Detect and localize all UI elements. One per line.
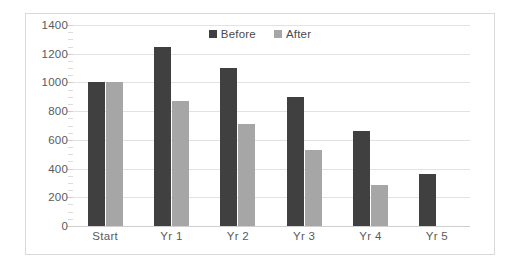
bar-after[interactable] [172, 101, 189, 226]
chart-container: 0200400600800100012001400 StartYr 1Yr 2Y… [25, 13, 495, 255]
legend-swatch-icon [274, 30, 282, 38]
x-axis-tick-label: Yr 5 [426, 230, 448, 242]
bar-after[interactable] [371, 185, 388, 226]
legend-label: After [286, 28, 311, 40]
y-axis-tick-label: 0 [61, 220, 68, 232]
bar-before[interactable] [220, 68, 237, 226]
legend-swatch-icon [209, 30, 217, 38]
bar-before[interactable] [287, 97, 304, 226]
bar-before[interactable] [419, 174, 436, 226]
y-axis-tick-label: 1200 [42, 48, 68, 60]
x-axis: StartYr 1Yr 2Yr 3Yr 4Yr 5 [72, 230, 470, 252]
legend-item-before[interactable]: Before [209, 28, 256, 40]
bar-group [138, 25, 204, 226]
x-axis-tick-label: Yr 4 [359, 230, 381, 242]
bar-group [404, 25, 470, 226]
legend-label: Before [221, 28, 256, 40]
x-axis-tick-label: Yr 3 [293, 230, 315, 242]
y-axis-tick-label: 400 [48, 163, 68, 175]
bar-after[interactable] [305, 150, 322, 226]
bar-group [72, 25, 138, 226]
y-axis-tick-label: 600 [48, 134, 68, 146]
bar-group [205, 25, 271, 226]
chart-legend: BeforeAfter [26, 28, 494, 40]
x-axis-tick-label: Start [92, 230, 118, 242]
bar-group [337, 25, 403, 226]
legend-item-after[interactable]: After [274, 28, 311, 40]
bars-layer [72, 25, 470, 226]
x-axis-tick-label: Yr 1 [160, 230, 182, 242]
x-axis-tick-label: Yr 2 [227, 230, 249, 242]
y-axis: 0200400600800100012001400 [26, 25, 68, 226]
y-axis-tick-label: 200 [48, 191, 68, 203]
y-axis-tick-label: 1000 [42, 76, 68, 88]
bar-before[interactable] [353, 131, 370, 226]
bar-group [271, 25, 337, 226]
bar-before[interactable] [154, 47, 171, 226]
bar-before[interactable] [88, 82, 105, 226]
axis-baseline [72, 226, 470, 227]
bar-after[interactable] [106, 82, 123, 226]
y-axis-tick-label: 800 [48, 105, 68, 117]
bar-after[interactable] [238, 124, 255, 226]
